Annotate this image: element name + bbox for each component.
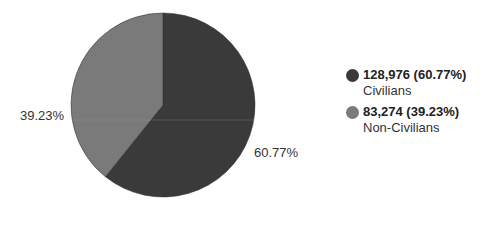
legend: 128,976 (60.77%) Civilians 83,274 (39.23… bbox=[346, 67, 466, 141]
legend-item-civilians[interactable]: 128,976 (60.77%) Civilians bbox=[346, 67, 466, 98]
legend-item-non-civilians[interactable]: 83,274 (39.23%) Non-Civilians bbox=[346, 104, 466, 135]
legend-value: 83,274 (39.23%) bbox=[363, 104, 459, 120]
legend-name: Civilians bbox=[363, 83, 466, 98]
legend-swatch-non-civilians bbox=[346, 106, 359, 119]
slice-label-non-civilians: 39.23% bbox=[20, 108, 64, 123]
legend-name: Non-Civilians bbox=[363, 120, 459, 135]
slice-label-civilians: 60.77% bbox=[254, 145, 298, 160]
legend-swatch-civilians bbox=[346, 69, 359, 82]
legend-value: 128,976 (60.77%) bbox=[363, 67, 466, 83]
